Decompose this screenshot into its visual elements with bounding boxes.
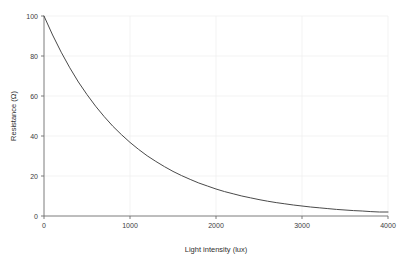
x-tick-label: 4000 [380,222,396,229]
chart-background [0,0,406,264]
x-tick-label: 1000 [122,222,138,229]
chart-container: 020406080100 01000200030004000 Resistanc… [0,0,406,264]
x-tick-label: 0 [42,222,46,229]
y-tick-label: 0 [34,213,38,220]
y-tick-label: 100 [26,13,38,20]
y-tick-label: 80 [30,53,38,60]
x-tick-label: 2000 [208,222,224,229]
resistance-vs-light-intensity-chart: 020406080100 01000200030004000 Resistanc… [0,0,406,264]
y-tick-label: 60 [30,93,38,100]
y-tick-label: 40 [30,133,38,140]
x-axis-label: Light intensity (lux) [185,245,248,254]
y-tick-label: 20 [30,173,38,180]
y-axis-label: Resistance (Ω) [9,91,18,141]
x-tick-label: 3000 [294,222,310,229]
